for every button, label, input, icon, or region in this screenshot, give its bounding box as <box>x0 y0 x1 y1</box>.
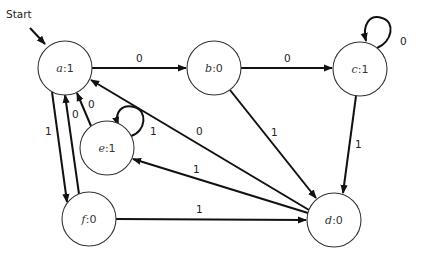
node-a: a:1 <box>38 41 92 95</box>
edge-f-d: 1 <box>116 203 306 220</box>
edge-label-a-b: 0 <box>136 52 143 64</box>
edge-a-f: 1 <box>45 92 67 202</box>
node-a-output: :1 <box>63 62 74 75</box>
node-e: e:1 <box>80 121 134 175</box>
svg-text:e:1: e:1 <box>98 142 115 155</box>
node-d-name: d <box>325 214 332 227</box>
start-arrow <box>30 28 45 44</box>
svg-text:c:1: c:1 <box>352 63 369 76</box>
edge-f-a: 0 <box>65 95 79 194</box>
svg-text:b:0: b:0 <box>205 62 223 75</box>
start-label: Start <box>6 8 32 20</box>
edge-b-c: 0 <box>241 52 332 68</box>
node-d-output: :0 <box>332 214 343 227</box>
edge-label-a-f: 1 <box>45 125 52 137</box>
edge-label-d-e: 1 <box>193 163 200 175</box>
svg-text:d:0: d:0 <box>325 214 343 227</box>
edge-a-b: 0 <box>92 52 186 68</box>
edge-c-d: 1 <box>343 96 362 193</box>
node-e-output: :1 <box>105 142 116 155</box>
edge-label-c-d: 1 <box>355 138 362 150</box>
edge-label-d-a: 0 <box>196 125 203 137</box>
node-b-output: :0 <box>212 62 223 75</box>
start-indicator: Start <box>6 8 45 44</box>
node-c-output: :1 <box>358 63 369 76</box>
node-b: b:0 <box>187 41 241 95</box>
edge-label-e-a: 0 <box>88 98 95 110</box>
edge-label-e-e: 1 <box>150 125 157 137</box>
edge-label-b-c: 0 <box>284 52 291 64</box>
node-d: d:0 <box>307 193 361 247</box>
node-c: c:1 <box>333 42 387 96</box>
edge-c-c: 0 <box>365 17 407 48</box>
node-b-name: b <box>205 62 212 75</box>
edge-label-f-d: 1 <box>196 203 203 215</box>
state-diagram: Start 0 1 0 1 0 1 <box>0 0 425 263</box>
edge-label-f-a: 0 <box>72 108 79 120</box>
node-f: f:0 <box>62 192 116 246</box>
edge-label-b-d: 1 <box>271 126 278 138</box>
edge-e-a: 0 <box>77 93 95 126</box>
svg-text:a:1: a:1 <box>56 62 73 75</box>
svg-text:f:0: f:0 <box>81 213 97 226</box>
edge-b-d: 1 <box>230 90 316 198</box>
edge-label-c-c: 0 <box>400 35 407 47</box>
edge-d-e: 1 <box>133 159 308 213</box>
nodes: a:1 b:0 c:1 e:1 f:0 d:0 <box>38 41 387 247</box>
node-f-output: :0 <box>86 213 97 226</box>
